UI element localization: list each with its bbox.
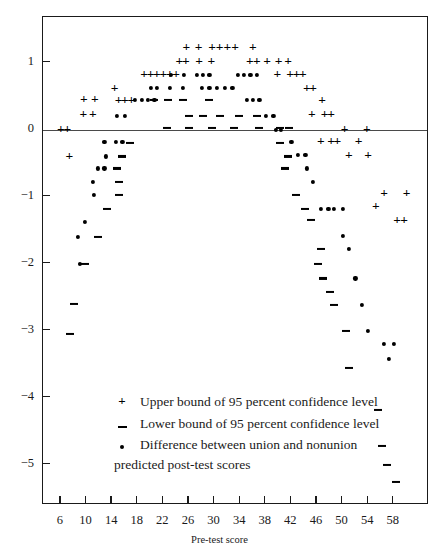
marker-plus: + (363, 122, 371, 136)
marker-plus: + (89, 108, 97, 122)
y-tick-label: −2 (12, 256, 34, 269)
marker-dash (284, 155, 292, 157)
marker-dash (115, 194, 123, 196)
marker-dash (216, 114, 224, 116)
marker-dash (253, 114, 261, 116)
marker-dash (292, 194, 300, 196)
x-tick-mark (85, 496, 86, 503)
x-tick-label: 22 (149, 514, 175, 527)
marker-dash (276, 142, 284, 144)
marker-dot (195, 73, 199, 77)
marker-dash (317, 248, 325, 250)
marker-dot (92, 193, 96, 197)
marker-dash (230, 127, 238, 129)
marker-dash (179, 99, 187, 101)
marker-dot (200, 86, 204, 90)
x-tick-mark (290, 496, 291, 503)
marker-dot (91, 180, 95, 184)
marker-dot (392, 342, 396, 346)
x-tick-label: 38 (252, 514, 278, 527)
marker-plus: + (80, 92, 88, 106)
x-tick-mark (264, 496, 265, 503)
marker-dot (207, 86, 211, 90)
legend-item-difference: Difference between union and nonunion pr… (114, 435, 384, 474)
marker-dot (215, 86, 219, 90)
marker-dot (319, 207, 323, 211)
marker-dot (296, 153, 300, 157)
marker-dash (113, 167, 121, 169)
y-tick-label: −5 (12, 457, 34, 470)
marker-plus: + (208, 40, 216, 54)
marker-plus: + (273, 67, 281, 81)
y-tick-mark (43, 329, 50, 330)
marker-dash (205, 99, 213, 101)
marker-plus: + (364, 148, 372, 162)
marker-dot (102, 140, 106, 144)
marker-plus: + (253, 54, 261, 68)
x-tick-mark (187, 496, 188, 503)
marker-dash (66, 333, 74, 335)
legend-label-lower-bound: Lower bound of 95 percent confidence lev… (140, 416, 379, 431)
marker-dot (75, 235, 79, 239)
x-tick-mark (136, 496, 137, 503)
marker-dot (96, 166, 100, 170)
marker-dash (285, 127, 293, 129)
x-tick-label: 14 (98, 514, 124, 527)
marker-dot (255, 73, 259, 77)
x-tick-label: 58 (380, 514, 406, 527)
marker-dot (182, 73, 186, 77)
marker-dash (330, 304, 338, 306)
marker-dot (311, 180, 315, 184)
marker-plus: + (403, 186, 411, 200)
x-tick-label: 6 (47, 514, 73, 527)
marker-plus: + (380, 186, 388, 200)
marker-dash (235, 114, 243, 116)
marker-plus: + (372, 199, 380, 213)
marker-dash (314, 263, 322, 265)
marker-dash (103, 208, 111, 210)
y-tick-label: −4 (12, 390, 34, 403)
marker-dash (208, 127, 216, 129)
marker-dash (281, 167, 289, 169)
marker-dash (345, 367, 353, 369)
marker-dot (139, 98, 143, 102)
marker-dash (118, 155, 126, 157)
marker-dash (199, 114, 207, 116)
marker-dot (78, 262, 82, 266)
marker-plus: + (182, 54, 190, 68)
marker-dot (146, 98, 150, 102)
marker-dash (115, 181, 123, 183)
marker-plus: + (317, 134, 325, 148)
marker-plus: + (345, 148, 353, 162)
marker-dash (255, 127, 263, 129)
plus-icon: + (114, 393, 130, 409)
marker-dot (326, 207, 330, 211)
marker-dot (303, 153, 307, 157)
marker-dot (120, 140, 124, 144)
marker-dot (207, 73, 211, 77)
marker-dot (230, 86, 234, 90)
marker-dot (257, 98, 261, 102)
marker-dot (271, 113, 275, 117)
y-tick-label: 0 (12, 122, 34, 135)
x-tick-label: 30 (201, 514, 227, 527)
y-tick-mark (43, 463, 50, 464)
marker-dot (223, 86, 227, 90)
marker-dot (340, 233, 344, 237)
marker-plus: + (327, 108, 335, 122)
marker-dot (289, 140, 293, 144)
x-tick-mark (239, 496, 240, 503)
y-tick-mark (43, 396, 50, 397)
marker-dot (248, 73, 252, 77)
marker-dash (319, 277, 327, 279)
x-tick-label: 34 (226, 514, 252, 527)
x-tick-mark (213, 496, 214, 503)
marker-dot (83, 220, 87, 224)
marker-dot (133, 98, 137, 102)
marker-dot (274, 128, 278, 132)
marker-dot (305, 166, 309, 170)
marker-dot (387, 357, 391, 361)
marker-dash (342, 330, 350, 332)
marker-plus: + (231, 40, 239, 54)
marker-dot (244, 98, 248, 102)
